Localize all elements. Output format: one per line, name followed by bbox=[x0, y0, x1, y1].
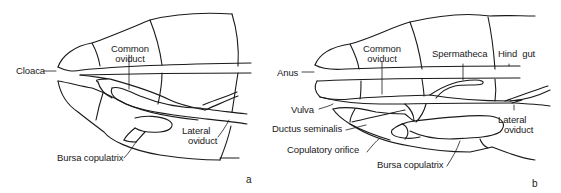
label-lateral-oviduct-a-line2: oviduct bbox=[182, 136, 224, 146]
label-lateral-oviduct-b: Lateral oviduct bbox=[498, 115, 540, 135]
label-bursa-copulatrix-a: Bursa copulatrix bbox=[57, 153, 124, 163]
label-anus: Anus bbox=[277, 68, 298, 78]
label-common-oviduct-b: Common oviduct bbox=[361, 44, 403, 64]
anatomy-line-drawing bbox=[0, 0, 561, 193]
label-common-oviduct-a-line2: oviduct bbox=[109, 54, 151, 64]
label-lateral-oviduct-b-line2: oviduct bbox=[498, 125, 540, 135]
reproductive-system-figure: Cloaca Common oviduct Bursa copulatrix L… bbox=[0, 0, 561, 193]
label-bursa-copulatrix-b: Bursa copulatrix bbox=[377, 160, 444, 170]
label-copulatory-orifice: Copulatory orifice bbox=[287, 145, 359, 155]
label-cloaca: Cloaca bbox=[16, 66, 45, 76]
panel-letter-a: a bbox=[246, 174, 252, 185]
label-common-oviduct-a: Common oviduct bbox=[109, 44, 151, 64]
label-vulva: Vulva bbox=[291, 105, 314, 115]
label-lateral-oviduct-a: Lateral oviduct bbox=[182, 126, 224, 146]
label-hind-gut: Hind gut bbox=[498, 49, 535, 59]
label-spermatheca: Spermatheca bbox=[432, 49, 487, 59]
label-common-oviduct-b-line2: oviduct bbox=[361, 54, 403, 64]
label-ductus-seminalis: Ductus seminalis bbox=[272, 124, 342, 134]
panel-letter-b: b bbox=[532, 178, 538, 189]
